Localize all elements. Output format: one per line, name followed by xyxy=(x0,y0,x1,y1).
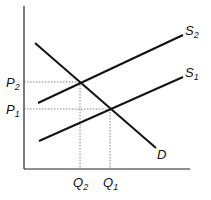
supply-curve-s2 xyxy=(38,35,183,103)
label-s2: S2 xyxy=(185,24,199,40)
label-q1: Q1 xyxy=(103,176,118,192)
supply-demand-chart: S2 S1 D P2 P1 Q2 Q1 xyxy=(0,0,211,200)
chart-plot xyxy=(0,0,211,200)
label-s1: S1 xyxy=(185,66,199,82)
label-p1: P1 xyxy=(6,103,20,119)
label-p2: P2 xyxy=(6,76,20,92)
label-q2: Q2 xyxy=(73,176,88,192)
label-d: D xyxy=(157,148,166,161)
